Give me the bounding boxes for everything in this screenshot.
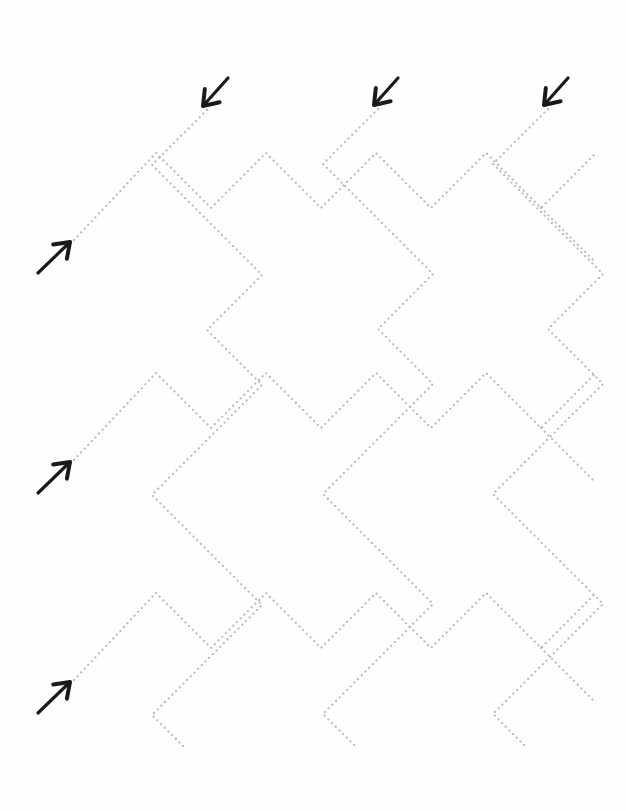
- arrow-left-1-icon: [38, 242, 70, 273]
- dotted-guide-lines: [73, 108, 604, 747]
- arrow-left-2-icon: [38, 462, 70, 493]
- zigzag-canvas: [0, 0, 626, 811]
- descending-chains-3: [492, 108, 604, 746]
- worksheet-sheet: — —— — ——— ———— ———— ————— ——— ——— —— ——…: [0, 0, 626, 811]
- arrow-top-3-icon: [544, 78, 568, 105]
- ascending-chains-3: [73, 592, 595, 681]
- right-tails-3: [540, 647, 594, 701]
- direction-arrows: [38, 78, 568, 713]
- arrow-left-3-icon: [38, 682, 70, 713]
- arrow-top-1-icon: [203, 78, 228, 106]
- arrow-top-2-icon: [374, 78, 398, 105]
- ascending-chains-2: [73, 372, 595, 461]
- descending-chains-2: [322, 108, 434, 746]
- right-tails-2: [540, 427, 594, 481]
- right-tails-1: [540, 207, 594, 261]
